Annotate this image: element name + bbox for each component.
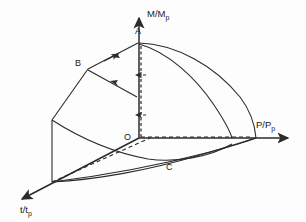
axis-label-m-mp-text: M/M (147, 8, 166, 19)
surface-upper-outline (139, 43, 256, 138)
axis-label-m-mp-sub: p (165, 14, 169, 22)
svg-text:P/Pp: P/Pp (256, 119, 275, 133)
figure-canvas: A B O C M/Mp P/Pp t/tp (0, 0, 306, 222)
surface-mid-curve (139, 44, 232, 138)
point-label-c: C (166, 162, 173, 172)
edge-b-to-origin (88, 70, 137, 97)
rib-curve-upper-left (52, 120, 232, 160)
axis-label-p-pp: P/Pp (256, 119, 275, 133)
svg-text:t/tp: t/tp (20, 204, 32, 218)
edge-b-to-left-corner (52, 69, 88, 120)
axis-label-t-tp: t/tp (20, 204, 32, 218)
diagram-svg: A B O C M/Mp P/Pp t/tp (0, 0, 306, 222)
axis-label-m-mp: M/Mp (147, 8, 169, 22)
axis-label-p-pp-sub: p (271, 125, 275, 133)
path-line-o-to-a (136, 45, 146, 137)
axis-label-p-pp-text: P/P (256, 119, 271, 130)
axis-label-t-tp-sub: p (28, 210, 32, 218)
svg-text:M/Mp: M/Mp (147, 8, 169, 22)
point-label-a: A (135, 26, 141, 36)
point-label-o: O (124, 132, 131, 142)
axis-lowerleft-t-tp (22, 138, 139, 199)
point-label-b: B (75, 58, 81, 68)
